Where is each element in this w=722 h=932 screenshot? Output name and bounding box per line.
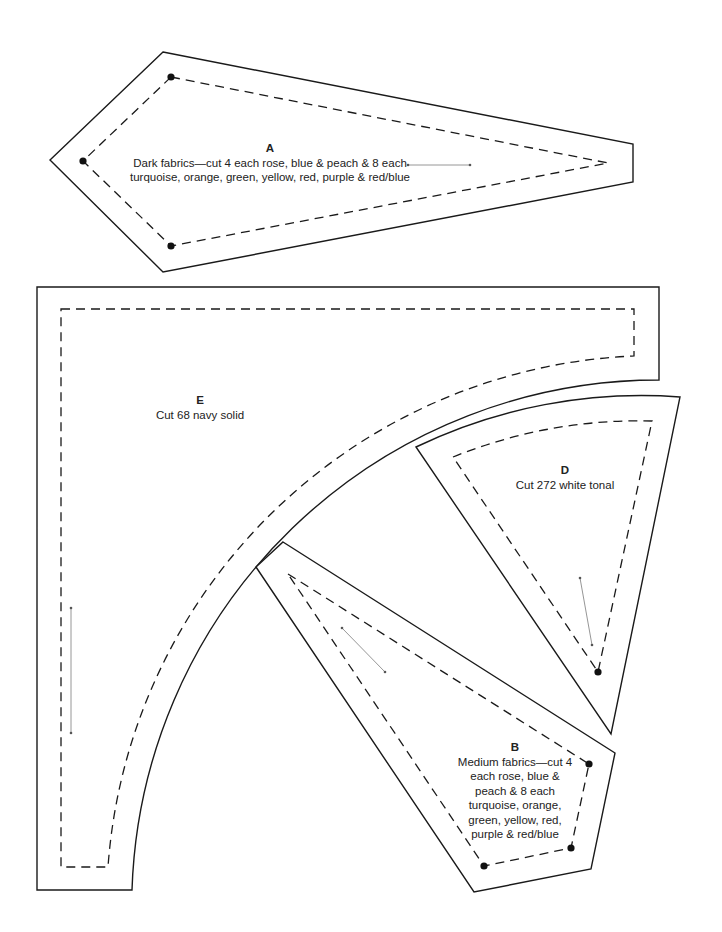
piece-d-letter: D (500, 463, 630, 478)
piece-b-letter: B (440, 740, 590, 755)
piece-a-corner-dot (167, 242, 174, 249)
piece-a-corner-dot (79, 157, 86, 164)
piece-b-corner-dot (480, 862, 487, 869)
piece-b-instructions-line: purple & red/blue (440, 827, 590, 842)
piece-b-instructions-line: Medium fabrics—cut 4 (440, 755, 590, 770)
piece-a-label: A Dark fabrics—cut 4 each rose, blue & p… (120, 141, 420, 185)
piece-a-instructions-line1: Dark fabrics—cut 4 each rose, blue & pea… (120, 156, 420, 171)
piece-d-instructions: Cut 272 white tonal (500, 478, 630, 493)
piece-a-corner-dot (167, 73, 174, 80)
piece-d-label: D Cut 272 white tonal (500, 463, 630, 492)
piece-b-instructions-line: each rose, blue & (440, 769, 590, 784)
piece-d-corner-dot (594, 668, 601, 675)
piece-b-instructions-line: turquoise, orange, (440, 798, 590, 813)
piece-e-letter: E (130, 393, 270, 408)
piece-b-label: B Medium fabrics—cut 4 each rose, blue &… (440, 740, 590, 842)
piece-b-instructions-line: green, yellow, red, (440, 813, 590, 828)
piece-a-letter: A (120, 141, 420, 156)
piece-b-corner-dot (567, 844, 574, 851)
piece-a-instructions-line2: turquoise, orange, green, yellow, red, p… (120, 170, 420, 185)
piece-b-instructions-line: peach & 8 each (440, 784, 590, 799)
piece-e-label: E Cut 68 navy solid (130, 393, 270, 422)
piece-e-instructions: Cut 68 navy solid (130, 408, 270, 423)
